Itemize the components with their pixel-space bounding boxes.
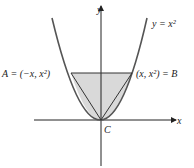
curve-label: y = x² [151, 18, 177, 29]
point-c-label: C [104, 124, 111, 135]
diagram-svg: y = x² y x A = (−x, x²) (x, x²) = B C [0, 0, 194, 168]
x-axis-label: x [176, 115, 182, 126]
y-axis-label: y [96, 4, 102, 15]
point-a-label: A = (−x, x²) [1, 68, 51, 80]
point-b-label: (x, x²) = B [136, 68, 177, 80]
parabola-diagram: y = x² y x A = (−x, x²) (x, x²) = B C [0, 0, 194, 168]
